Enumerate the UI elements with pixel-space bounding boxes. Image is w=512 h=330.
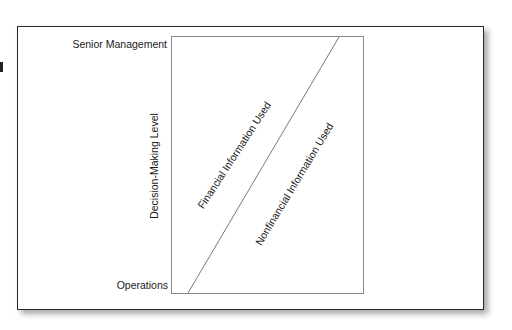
operations-label: Operations	[117, 279, 168, 291]
y-axis-label: Decision-Making Level	[148, 113, 160, 219]
divider-line	[188, 37, 339, 293]
senior-management-label: Senior Management	[72, 38, 167, 50]
inner-box	[172, 37, 364, 294]
